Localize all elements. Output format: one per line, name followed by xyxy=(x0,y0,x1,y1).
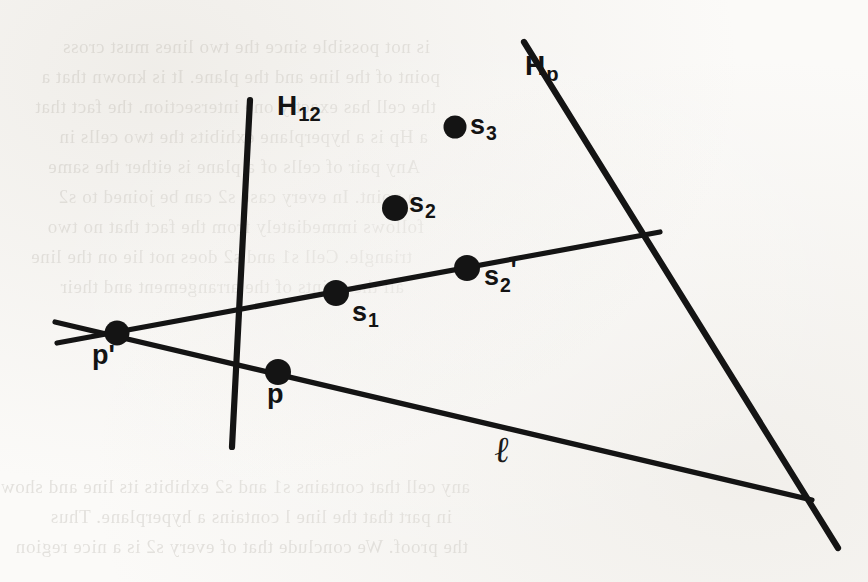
geometry-figure: is not possible since the two lines must… xyxy=(0,0,868,582)
line-Hp xyxy=(524,42,838,548)
label-s1-subscript: 1 xyxy=(367,309,379,331)
node-s2prime xyxy=(454,255,480,281)
label-s2-prime-mark: ' xyxy=(511,256,517,283)
label-s3-subscript: 3 xyxy=(485,122,497,144)
label-s2-prime-base: s xyxy=(484,261,499,291)
label-s2: s2 xyxy=(409,190,436,222)
label-h12: H12 xyxy=(277,92,321,125)
label-s2-base: s xyxy=(409,188,424,218)
label-ell: ℓ xyxy=(493,432,510,469)
label-h12-base: H xyxy=(277,90,297,121)
label-p-prime: p' xyxy=(92,342,115,369)
label-s1-base: s xyxy=(352,297,367,327)
label-s3: s3 xyxy=(470,112,497,144)
figure-lines xyxy=(55,42,838,548)
line-H12 xyxy=(232,100,250,447)
line-ell xyxy=(55,322,812,500)
node-s2 xyxy=(382,195,408,221)
label-s3-base: s xyxy=(470,110,485,140)
label-hp: Hp xyxy=(525,52,559,85)
label-hp-subscript: p xyxy=(545,63,558,85)
label-s1: s1 xyxy=(352,299,379,331)
label-s2-subscript: 2 xyxy=(424,200,436,222)
figure-canvas xyxy=(0,0,868,582)
node-s1 xyxy=(323,280,349,306)
label-p: p xyxy=(267,381,284,408)
label-hp-base: H xyxy=(525,50,545,81)
label-s2-prime: s2' xyxy=(484,258,517,295)
label-h12-subscript: 12 xyxy=(297,103,320,125)
label-s2-prime-subscript: 2 xyxy=(499,274,511,296)
node-s3 xyxy=(444,116,467,139)
